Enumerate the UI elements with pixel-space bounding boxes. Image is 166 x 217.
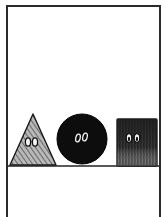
- triangle-character: [10, 114, 56, 165]
- circle-character: [57, 114, 107, 164]
- comic-panel-drawing: [0, 0, 166, 217]
- square-character: [117, 119, 157, 166]
- panel-frame: [6, 6, 161, 217]
- comic-panel: [0, 0, 166, 217]
